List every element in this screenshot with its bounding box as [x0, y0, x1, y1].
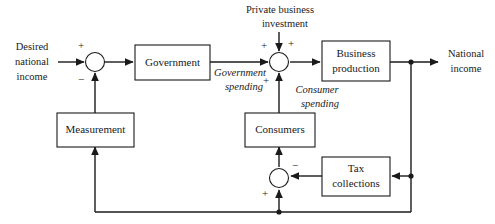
aggregate-demand-summing-junction[interactable]: + + +: [261, 37, 294, 86]
block-consumers[interactable]: Consumers: [245, 113, 315, 147]
block-measurement-label: Measurement: [66, 123, 126, 135]
block-business-production[interactable]: Business production: [322, 41, 390, 81]
label-government-spending: Government spending: [214, 67, 267, 92]
national-income-line1: National: [448, 48, 484, 59]
private-business-investment-line2: investment: [262, 18, 308, 29]
national-income-line2: income: [451, 63, 482, 74]
disposable-junction-minus-sign: −: [292, 159, 298, 171]
node-tax-collections-branch: [408, 173, 413, 178]
government-spending-line2: spending: [225, 81, 263, 92]
disposable-junction-plus-sign: +: [262, 187, 268, 199]
error-summing-junction-circle[interactable]: [86, 53, 105, 72]
error-junction-plus-sign: +: [78, 39, 84, 51]
consumer-spending-line1: Consumer: [295, 84, 339, 95]
desired-national-income-line3: income: [17, 71, 48, 82]
label-desired-national-income: Desired national income: [15, 41, 49, 82]
block-business-production-label-line2: production: [332, 62, 380, 74]
consumer-spending-line2: spending: [301, 98, 339, 109]
block-tax-collections-label-line1: Tax: [348, 162, 365, 174]
block-diagram-canvas: Government Measurement Business producti…: [0, 0, 495, 224]
label-consumer-spending: Consumer spending: [295, 84, 339, 109]
block-government-label: Government: [145, 56, 200, 68]
label-national-income: National income: [448, 48, 484, 74]
block-consumers-label: Consumers: [255, 123, 305, 135]
block-measurement[interactable]: Measurement: [57, 113, 134, 147]
block-business-production-label-line1: Business: [336, 47, 375, 59]
private-business-investment-line1: Private business: [246, 4, 314, 15]
block-tax-collections[interactable]: Tax collections: [322, 157, 390, 196]
block-tax-collections-label-line2: collections: [332, 177, 380, 189]
demand-summing-junction-circle[interactable]: [270, 53, 289, 72]
block-diagram: Government Measurement Business producti…: [0, 0, 495, 224]
government-spending-line1: Government: [214, 67, 267, 78]
desired-national-income-line1: Desired: [16, 41, 49, 52]
disposable-income-junction-circle[interactable]: [270, 169, 289, 188]
demand-junction-plus-left-sign: +: [261, 39, 267, 51]
disposable-income-summing-junction[interactable]: − +: [262, 159, 298, 199]
block-government[interactable]: Government: [135, 45, 210, 80]
node-bottom-feedback-branch: [276, 209, 281, 214]
error-junction-minus-sign: −: [78, 73, 84, 85]
demand-junction-plus-top-sign: +: [288, 37, 294, 49]
desired-national-income-line2: national: [15, 56, 49, 67]
label-private-business-investment: Private business investment: [246, 4, 314, 29]
